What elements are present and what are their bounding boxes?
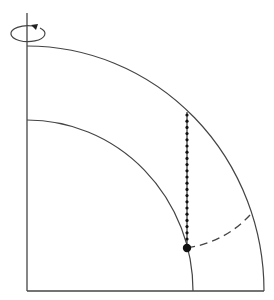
sphere-rotation-diagram <box>0 0 274 300</box>
plumb-bead <box>185 206 188 209</box>
plumb-bead <box>185 237 188 240</box>
plumb-bead <box>185 225 188 228</box>
plumb-bead <box>185 144 188 147</box>
plumb-bead <box>185 113 188 116</box>
rotation-arrow-icon <box>11 24 45 42</box>
plumb-bead <box>185 182 188 185</box>
plumb-bead <box>185 157 188 160</box>
plumb-bead <box>185 219 188 222</box>
plumb-bead <box>185 138 188 141</box>
plumb-bead <box>185 200 188 203</box>
plumb-line-dotted <box>185 112 188 246</box>
point-on-inner-surface <box>183 244 191 252</box>
plumb-bead <box>185 120 188 123</box>
inner-shell-arc <box>27 120 193 291</box>
dashed-curve <box>187 215 250 248</box>
plumb-bead <box>185 231 188 234</box>
plumb-bead <box>185 213 188 216</box>
plumb-bead <box>185 175 188 178</box>
plumb-bead <box>185 194 188 197</box>
plumb-bead <box>185 169 188 172</box>
plumb-bead <box>185 163 188 166</box>
plumb-bead <box>185 132 188 135</box>
plumb-bead <box>185 126 188 129</box>
plumb-bead <box>185 188 188 191</box>
plumb-bead <box>185 151 188 154</box>
outer-shell-arc <box>27 46 264 291</box>
